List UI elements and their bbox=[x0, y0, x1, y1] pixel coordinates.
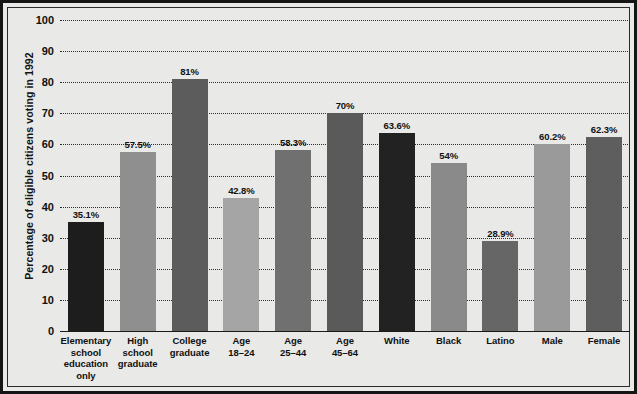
category-label-line: 25–44 bbox=[267, 347, 319, 359]
category-label: White bbox=[371, 335, 423, 347]
bar-value-label: 54% bbox=[439, 150, 458, 161]
bar: 35.1% bbox=[68, 222, 104, 331]
y-axis-tick-label: 30 bbox=[26, 232, 54, 243]
category-label-line: 45–64 bbox=[319, 347, 371, 359]
category-label-line: Black bbox=[423, 335, 475, 347]
bar-value-label: 35.1% bbox=[73, 209, 99, 220]
gridline bbox=[60, 82, 630, 83]
plot-area: 1009080706050403020100 35.1%57.5%81%42.8… bbox=[60, 20, 630, 331]
bar: 63.6% bbox=[379, 133, 415, 331]
y-axis-tick-label: 40 bbox=[26, 201, 54, 212]
category-label: Collegegraduate bbox=[164, 335, 216, 358]
gridline bbox=[60, 20, 630, 21]
bar-value-label: 60.2% bbox=[539, 131, 565, 142]
y-axis-tick-label: 80 bbox=[26, 77, 54, 88]
chart-figure: Percentage of eligible citizens voting i… bbox=[0, 0, 637, 394]
category-label-line: Age bbox=[215, 335, 267, 347]
bar: 62.3% bbox=[586, 137, 622, 331]
category-label: Male bbox=[526, 335, 578, 347]
y-axis-tick-label: 60 bbox=[26, 139, 54, 150]
category-label-line: Age bbox=[267, 335, 319, 347]
category-label-line: High bbox=[112, 335, 164, 347]
bar: 28.9% bbox=[482, 241, 518, 331]
category-label-line: Female bbox=[578, 335, 630, 347]
category-label: Black bbox=[423, 335, 475, 347]
bar: 70% bbox=[327, 113, 363, 331]
category-label-line: education bbox=[60, 358, 112, 370]
bar: 42.8% bbox=[223, 198, 259, 331]
bar-value-label: 70% bbox=[336, 100, 355, 111]
bar-value-label: 57.5% bbox=[125, 139, 151, 150]
y-axis-tick-label: 90 bbox=[26, 46, 54, 57]
bar: 60.2% bbox=[534, 144, 570, 331]
y-axis-tick-label: 0 bbox=[26, 326, 54, 337]
chart-inner-frame: Percentage of eligible citizens voting i… bbox=[7, 7, 630, 387]
bar-value-label: 58.3% bbox=[280, 137, 306, 148]
y-axis-tick-label: 10 bbox=[26, 294, 54, 305]
category-label-line: College bbox=[164, 335, 216, 347]
y-axis-tick-label: 100 bbox=[26, 15, 54, 26]
gridline bbox=[60, 51, 630, 52]
y-axis-tick-label: 50 bbox=[26, 170, 54, 181]
bar-value-label: 81% bbox=[180, 66, 199, 77]
category-label: Female bbox=[578, 335, 630, 347]
bar-value-label: 28.9% bbox=[487, 228, 513, 239]
bar: 54% bbox=[431, 163, 467, 331]
y-axis-tick-label: 20 bbox=[26, 263, 54, 274]
category-label: Highschoolgraduate bbox=[112, 335, 164, 370]
category-label: Age25–44 bbox=[267, 335, 319, 358]
category-label: Latino bbox=[475, 335, 527, 347]
x-axis-baseline bbox=[60, 331, 630, 332]
category-label-line: Latino bbox=[475, 335, 527, 347]
y-axis-tick-label: 70 bbox=[26, 108, 54, 119]
category-label-line: White bbox=[371, 335, 423, 347]
bar: 58.3% bbox=[275, 150, 311, 331]
category-label: Age18–24 bbox=[215, 335, 267, 358]
category-label: Elementaryschooleducationonly bbox=[60, 335, 112, 381]
category-label-line: Elementary bbox=[60, 335, 112, 347]
category-label-line: Age bbox=[319, 335, 371, 347]
category-label: Age45–64 bbox=[319, 335, 371, 358]
category-label-line: graduate bbox=[164, 347, 216, 359]
bar: 57.5% bbox=[120, 152, 156, 331]
category-label-line: 18–24 bbox=[215, 347, 267, 359]
bar-value-label: 62.3% bbox=[591, 124, 617, 135]
category-label-line: Male bbox=[526, 335, 578, 347]
bar-value-label: 42.8% bbox=[228, 185, 254, 196]
category-label-line: graduate bbox=[112, 358, 164, 370]
bar: 81% bbox=[172, 79, 208, 331]
category-label-line: school bbox=[112, 347, 164, 359]
category-label-line: only bbox=[60, 370, 112, 382]
bar-value-label: 63.6% bbox=[384, 120, 410, 131]
category-label-line: school bbox=[60, 347, 112, 359]
